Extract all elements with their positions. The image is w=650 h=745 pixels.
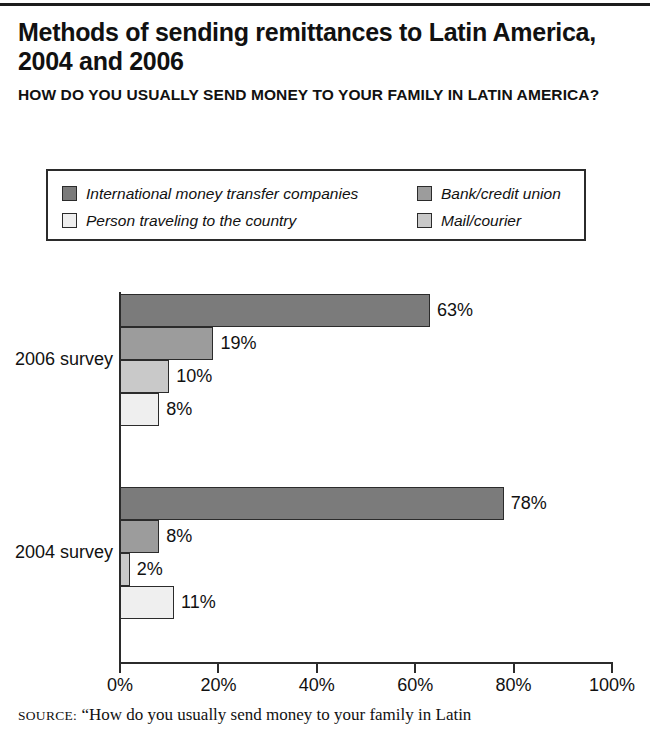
legend-label: Mail/courier (441, 212, 521, 230)
bar-value-label: 10% (176, 360, 212, 393)
page-subtitle: HOW DO YOU USUALLY SEND MONEY TO YOUR FA… (18, 86, 632, 104)
bar-chart-plot-area: 0%20%40%60%80%100% 63%19%10%8%78%8%2%11%… (0, 272, 650, 672)
bar (120, 327, 213, 360)
legend-label: Person traveling to the country (86, 212, 296, 230)
x-axis-tick-label: 80% (496, 675, 532, 696)
bar (120, 294, 430, 327)
category-label: 2006 survey (3, 349, 113, 370)
x-axis-tick-label: 60% (397, 675, 433, 696)
x-axis-tick-label: 40% (299, 675, 335, 696)
chart-legend: International money transfer companies B… (46, 169, 586, 241)
bar (120, 586, 174, 619)
bar-value-label: 11% (181, 586, 216, 619)
bar (120, 553, 130, 586)
x-axis-tick-label: 100% (589, 675, 635, 696)
legend-grid: International money transfer companies B… (62, 180, 574, 234)
bar-value-label: 8% (166, 520, 192, 553)
x-axis-tick-label: 0% (107, 675, 133, 696)
legend-item-international-money-transfer-companies: International money transfer companies (62, 185, 417, 203)
legend-swatch-icon (417, 213, 432, 228)
legend-label: International money transfer companies (86, 185, 358, 203)
top-divider-rule (0, 3, 650, 6)
legend-item-bank-credit-union: Bank/credit union (417, 185, 574, 203)
x-axis-tick-label: 20% (200, 675, 236, 696)
x-axis-tick (611, 664, 613, 673)
bar-value-label: 63% (437, 294, 473, 327)
legend-item-mail-courier: Mail/courier (417, 212, 574, 230)
bar-value-label: 78% (511, 487, 547, 520)
bar (120, 487, 504, 520)
x-axis-tick (316, 664, 318, 673)
category-label: 2004 survey (3, 542, 113, 563)
legend-swatch-icon (417, 186, 432, 201)
source-kicker: SOURCE: (18, 708, 77, 723)
x-axis-tick (217, 664, 219, 673)
page-title: Methods of sending remittances to Latin … (18, 18, 624, 76)
bar-value-label: 19% (220, 327, 256, 360)
bar-value-label: 2% (137, 553, 163, 586)
legend-label: Bank/credit union (441, 185, 561, 203)
bar (120, 520, 159, 553)
legend-swatch-icon (62, 186, 77, 201)
bar (120, 360, 169, 393)
source-text: “How do you usually send money to your f… (81, 705, 471, 724)
x-axis-tick (513, 664, 515, 673)
bar-value-label: 8% (166, 393, 192, 426)
bar (120, 393, 159, 426)
x-axis-tick (119, 664, 121, 673)
x-axis-line (119, 662, 613, 664)
legend-item-person-traveling-to-the-country: Person traveling to the country (62, 212, 417, 230)
source-note: SOURCE: “How do you usually send money t… (18, 705, 638, 725)
legend-swatch-icon (62, 213, 77, 228)
x-axis-tick (414, 664, 416, 673)
